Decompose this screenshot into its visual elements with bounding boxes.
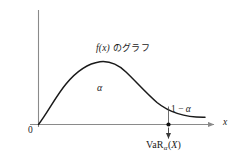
curve-name-label: f(x) のグラフ bbox=[96, 44, 150, 54]
figure-canvas bbox=[0, 0, 243, 168]
origin-label: 0 bbox=[28, 126, 33, 136]
density-curve bbox=[39, 62, 206, 125]
x-axis-label: x bbox=[223, 118, 227, 128]
tail-alpha: α bbox=[186, 104, 191, 114]
var-point-marker bbox=[166, 122, 170, 126]
var-paren-close: ) bbox=[178, 139, 181, 150]
tail-probability-label: 1 − α bbox=[171, 105, 191, 115]
curve-name-japanese: のグラフ bbox=[110, 43, 150, 53]
var-name: VaR bbox=[146, 139, 164, 150]
alpha-region-label: α bbox=[97, 83, 102, 93]
var-density-figure: f(x) のグラフ α 1 − α 0 x VaRα(X) bbox=[0, 0, 243, 168]
var-caption-label: VaRα(X) bbox=[146, 140, 181, 152]
curve-name-latin: f(x) bbox=[96, 43, 110, 53]
tail-prefix: 1 − bbox=[171, 104, 186, 114]
